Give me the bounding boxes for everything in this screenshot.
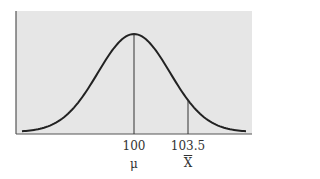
mean-tick-label: 100 — [114, 139, 154, 153]
xbar-symbol: X — [178, 156, 198, 170]
sample-tick-label: 103.5 — [168, 139, 208, 153]
mu-symbol: μ — [124, 157, 144, 171]
